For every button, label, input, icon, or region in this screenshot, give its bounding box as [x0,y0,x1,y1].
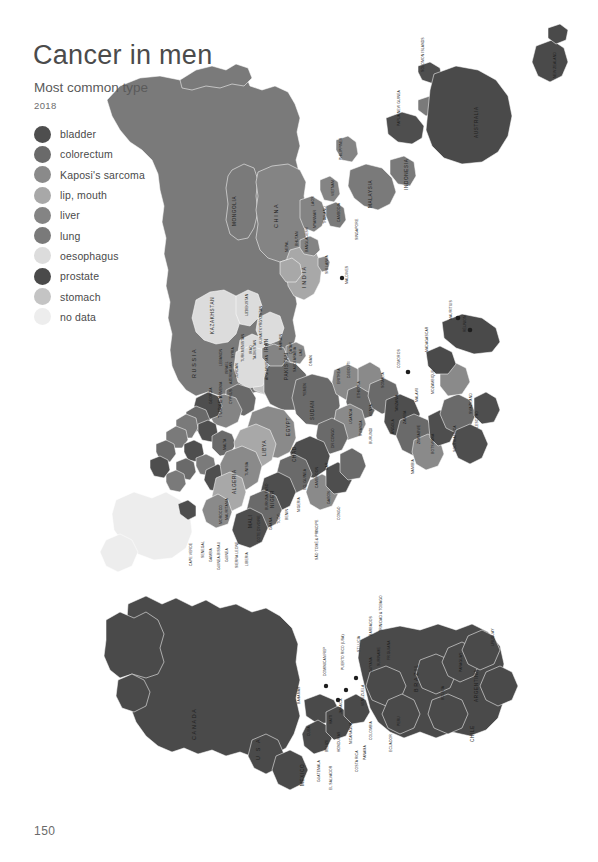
svg-text:TRINIDAD & TOBAGO: TRINIDAD & TOBAGO [379,595,383,632]
legend-item-label: oesophagus [60,250,119,262]
svg-text:ZIMBABWE: ZIMBABWE [417,424,421,444]
svg-text:TAJIKISTAN: TAJIKISTAN [253,340,257,360]
svg-text:TANZANIA: TANZANIA [395,394,399,412]
legend-item-lip-mouth: lip, mouth [34,185,164,205]
svg-text:COSTA RICA: COSTA RICA [355,750,359,772]
svg-text:LAOS: LAOS [311,196,315,206]
svg-text:MALAYSIA: MALAYSIA [368,180,373,208]
svg-text:THAILAND: THAILAND [323,206,327,224]
svg-text:INDIA: INDIA [301,265,307,288]
svg-text:INDONESIA: INDONESIA [404,158,409,190]
svg-text:LESOTHO: LESOTHO [475,411,479,428]
legend-swatch [34,308,51,325]
svg-text:NEW ZEALAND: NEW ZEALAND [553,52,557,78]
svg-text:BAHRAIN: BAHRAIN [279,334,283,350]
legend-item-stomach: stomach [34,286,164,306]
svg-text:KYRGYZSTAN: KYRGYZSTAN [259,306,263,330]
legend-item-label: bladder [60,128,96,140]
svg-text:CAR: CAR [325,462,329,470]
svg-text:IRAQ: IRAQ [249,345,253,354]
legend-swatch [34,126,51,143]
svg-text:GUINEA-BISSAU: GUINEA-BISSAU [217,541,221,570]
legend-item-prostate: prostate [34,266,164,286]
svg-text:NIGER: NIGER [270,490,275,508]
svg-text:CUBA: CUBA [307,725,311,736]
svg-text:ARGENTINA: ARGENTINA [474,669,479,702]
svg-text:U S A: U S A [255,738,261,760]
svg-text:SURINAME: SURINAME [377,646,381,666]
page-title: Cancer in men [33,42,212,69]
svg-text:MALAWI: MALAWI [415,388,419,402]
svg-text:MAURITIUS: MAURITIUS [449,300,453,320]
svg-text:TOGO: TOGO [277,513,281,524]
svg-text:DOMINICAN REP: DOMINICAN REP [323,646,327,676]
svg-text:COLOMBIA: COLOMBIA [369,720,373,740]
svg-text:BURUNDI: BURUNDI [369,428,373,444]
map-region-oceania [386,24,568,164]
data-year: 2018 [34,100,57,111]
svg-text:SWAZILAND: SWAZILAND [469,393,473,414]
svg-text:UGANDA: UGANDA [349,408,353,424]
legend-swatch [34,166,51,183]
svg-text:GUYANA: GUYANA [369,657,373,672]
svg-text:KUWAIT: KUWAIT [259,329,263,344]
svg-text:BANGLADESH: BANGLADESH [305,227,309,252]
svg-text:MEXICO: MEXICO [300,764,305,786]
svg-text:PAKISTAN: PAKISTAN [284,352,289,380]
svg-text:BELIZE: BELIZE [325,739,329,752]
svg-text:SUDAN: SUDAN [310,400,315,420]
svg-text:MALI: MALI [248,514,253,528]
svg-text:CAPE VERDE: CAPE VERDE [189,542,193,566]
svg-text:ANGOLA: ANGOLA [391,418,395,434]
legend-item-label: Kaposi's sarcoma [60,169,145,181]
svg-text:URUGUAY: URUGUAY [491,628,495,646]
svg-text:SENEGAL: SENEGAL [201,541,205,558]
svg-text:KAZAKHSTAN: KAZAKHSTAN [210,297,215,334]
svg-text:HAITI: HAITI [329,715,333,724]
legend-item-bladder: bladder [34,124,164,144]
svg-text:AUSTRALIA: AUSTRALIA [474,106,479,138]
legend-item-label: stomach [60,291,101,303]
svg-text:GHANA: GHANA [269,517,273,530]
svg-text:UAE: UAE [299,348,303,356]
svg-text:PHILIPPINES: PHILIPPINES [339,137,343,160]
svg-text:MOROCCO: MOROCCO [219,505,223,524]
legend-item-label: lung [60,230,80,242]
svg-text:ZAMBIA: ZAMBIA [403,410,407,424]
legend-item-lung: lung [34,225,164,245]
svg-text:DJIBOUTI: DJIBOUTI [347,362,351,378]
page-number: 150 [34,824,56,838]
svg-text:BURKINA FASO: BURKINA FASO [265,483,269,510]
legend-swatch [34,207,51,224]
svg-text:BENIN: BENIN [285,509,289,520]
svg-text:IRAN: IRAN [264,338,269,352]
svg-text:CHILE: CHILE [470,725,475,742]
legend-item-label: colorectum [60,148,113,160]
svg-text:DR CONGO: DR CONGO [331,428,335,448]
legend-item-colorectum: colorectum [34,144,164,164]
svg-text:CHAD: CHAD [292,446,297,462]
svg-text:SOMALIA: SOMALIA [381,371,385,388]
svg-text:COTE D'IVOIRE: COTE D'IVOIRE [257,515,261,542]
svg-text:BAHAMAS: BAHAMAS [297,686,301,704]
svg-text:PERU: PERU [397,716,401,726]
svg-text:AZERBAIJAN: AZERBAIJAN [229,361,233,384]
legend-item-label: no data [60,311,96,323]
legend-swatch [34,268,51,285]
svg-text:NIGERIA: NIGERIA [297,497,301,512]
svg-text:EQ. GUINEA: EQ. GUINEA [303,468,307,490]
svg-text:MALTA: MALTA [223,438,227,450]
svg-text:ERITREA: ERITREA [337,368,341,384]
svg-text:NAMIBIA: NAMIBIA [411,459,415,474]
legend-item-label: lip, mouth [60,189,107,201]
legend-swatch [34,247,51,264]
svg-text:NEPAL: NEPAL [285,240,289,252]
svg-text:MONGOLIA: MONGOLIA [232,195,237,226]
svg-text:SIERRA LEONE: SIERRA LEONE [235,541,239,568]
svg-text:CYPRUS: CYPRUS [229,388,233,404]
svg-text:MALDIVES: MALDIVES [345,265,349,284]
svg-text:MYANMAR: MYANMAR [313,210,317,228]
svg-text:ISRAEL: ISRAEL [225,361,229,374]
svg-text:LIBYA: LIBYA [262,440,267,456]
svg-text:SÃO TOMÉ & PRÍNCIPE: SÃO TOMÉ & PRÍNCIPE [314,519,319,560]
